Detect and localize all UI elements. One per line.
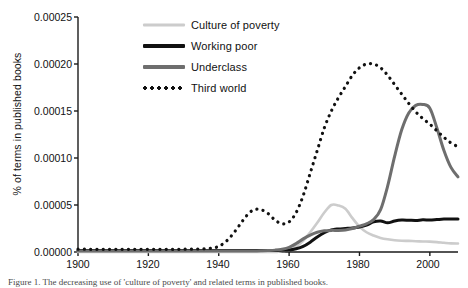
- legend-swatch-culture-of-poverty: [143, 19, 185, 30]
- series-underclass: [78, 104, 458, 251]
- legend-swatch-working-poor: [143, 40, 185, 51]
- legend-item-underclass: Underclass: [143, 56, 280, 77]
- legend-item-culture-of-poverty: Culture of poverty: [143, 14, 280, 35]
- series-working-poor: [78, 219, 458, 251]
- legend-label-culture-of-poverty: Culture of poverty: [191, 19, 280, 31]
- series-culture-of-poverty: [78, 204, 458, 252]
- legend-label-working-poor: Working poor: [191, 40, 257, 52]
- legend-item-working-poor: Working poor: [143, 35, 280, 56]
- legend-item-third-world: Third world: [143, 77, 280, 98]
- chart-legend: Culture of poverty Working poor Undercla…: [143, 14, 280, 98]
- legend-label-third-world: Third world: [191, 82, 247, 94]
- legend-swatch-underclass: [143, 61, 185, 72]
- legend-swatch-third-world: [143, 82, 185, 93]
- figure-container: % of terms in published books 0.00025 0.…: [0, 0, 468, 288]
- legend-label-underclass: Underclass: [191, 61, 247, 73]
- figure-caption: Figure 1. The decreasing use of 'culture…: [8, 277, 460, 288]
